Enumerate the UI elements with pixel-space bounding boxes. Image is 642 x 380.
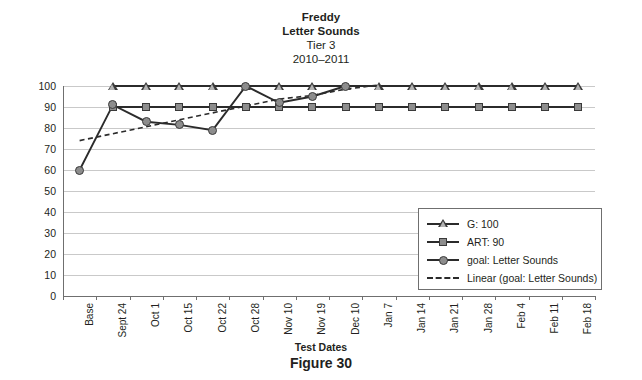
square-marker xyxy=(242,103,250,111)
square-marker xyxy=(441,103,449,111)
square-marker xyxy=(408,103,416,111)
square-marker xyxy=(375,103,383,111)
circle-marker xyxy=(341,82,350,91)
triangle-marker xyxy=(407,82,417,90)
series-path xyxy=(80,85,379,141)
legend-label-art: ART: 90 xyxy=(461,236,504,248)
triangle-marker xyxy=(507,82,517,90)
triangle-marker xyxy=(274,82,284,90)
triangle-marker xyxy=(108,82,118,90)
triangle-icon xyxy=(425,217,461,231)
legend-label-g: G: 100 xyxy=(461,218,499,230)
square-marker xyxy=(541,103,549,111)
legend-label-linear: Linear (goal: Letter Sounds) xyxy=(461,272,597,284)
square-marker xyxy=(308,103,316,111)
triangle-marker xyxy=(540,82,550,90)
square-icon xyxy=(425,235,461,249)
dashed-line-icon xyxy=(425,271,461,285)
triangle-marker xyxy=(440,82,450,90)
legend-item-goal: goal: Letter Sounds xyxy=(425,251,595,269)
figure-chart: Freddy Letter Sounds Tier 3 2010–2011 01… xyxy=(0,0,642,380)
triangle-marker xyxy=(174,82,184,90)
circle-marker xyxy=(208,126,217,135)
chart-legend: G: 100 ART: 90 goal: Letter Sounds Linea… xyxy=(418,208,602,290)
square-marker xyxy=(574,103,582,111)
circle-marker xyxy=(75,166,84,175)
triangle-marker xyxy=(307,82,317,90)
square-marker xyxy=(475,103,483,111)
x-axis-title: Test Dates xyxy=(0,341,642,353)
square-marker xyxy=(142,103,150,111)
legend-label-goal: goal: Letter Sounds xyxy=(461,254,558,266)
legend-item-art: ART: 90 xyxy=(425,233,595,251)
legend-item-linear: Linear (goal: Letter Sounds) xyxy=(425,269,595,287)
circle-marker xyxy=(241,82,250,91)
triangle-marker xyxy=(474,82,484,90)
square-marker xyxy=(209,103,217,111)
square-marker xyxy=(342,103,350,111)
circle-icon xyxy=(425,253,461,267)
square-marker xyxy=(175,103,183,111)
legend-item-g: G: 100 xyxy=(425,215,595,233)
figure-caption: Figure 30 xyxy=(0,355,642,371)
square-marker xyxy=(508,103,516,111)
triangle-marker xyxy=(141,82,151,90)
triangle-marker xyxy=(208,82,218,90)
series-layer xyxy=(0,0,642,380)
circle-marker xyxy=(275,98,284,107)
triangle-marker xyxy=(573,82,583,90)
triangle-marker xyxy=(374,82,384,90)
circle-marker xyxy=(142,117,151,126)
circle-marker xyxy=(308,92,317,101)
